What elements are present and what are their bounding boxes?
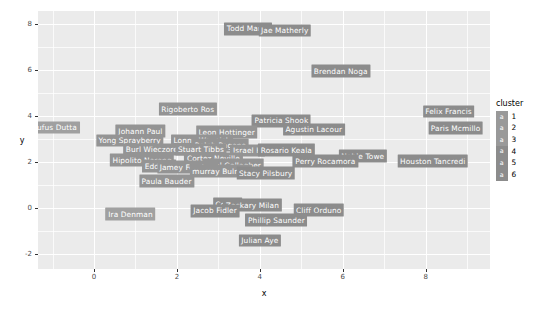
y-tick-label: 0 (0, 204, 32, 212)
x-tick-label: 6 (341, 273, 345, 281)
legend-item-label: 5 (512, 159, 517, 167)
point-label: Jacob Fidler (191, 204, 240, 217)
point-label: Julian Aye (239, 234, 281, 247)
point-label: Ira Denman (106, 208, 156, 221)
y-tick-mark (35, 116, 38, 117)
gridline-y-minor (38, 231, 490, 232)
y-tick-mark (35, 24, 38, 25)
point-label: Jae Matherly (258, 24, 311, 37)
legend-key-glyph: a (496, 111, 508, 123)
x-tick-mark (94, 269, 95, 272)
point-label: Houston Tancredi (397, 155, 468, 168)
point-label: Rigoberto Ros (159, 103, 217, 116)
y-tick-label: 6 (0, 66, 32, 74)
x-tick-label: 4 (258, 273, 262, 281)
legend: cluster a1a2a3a4a5a6 (496, 99, 544, 181)
y-tick-label: 2 (0, 158, 32, 166)
point-label: Stacy Pilsbury (236, 167, 295, 180)
legend-item: a5 (496, 157, 544, 169)
legend-item-label: 1 (512, 113, 517, 121)
x-tick-mark (343, 269, 344, 272)
x-axis-title: x (262, 289, 267, 298)
legend-item: a2 (496, 123, 544, 135)
legend-key-glyph: a (496, 134, 508, 146)
gridline-y-minor (38, 93, 490, 94)
point-label: Perry Rocamora (293, 155, 358, 168)
legend-item: a6 (496, 169, 544, 181)
point-label: Paris Mcmillo (428, 122, 483, 135)
point-label: Brendan Noga (311, 65, 370, 78)
point-label: Rufus Dutta (38, 121, 80, 134)
legend-key-glyph: a (496, 169, 508, 181)
gridline-y-major (38, 254, 490, 255)
y-tick-mark (35, 70, 38, 71)
legend-key-glyph: a (496, 157, 508, 169)
legend-item: a4 (496, 146, 544, 158)
y-tick-label: 8 (0, 20, 32, 28)
x-tick-label: 0 (92, 273, 96, 281)
point-label: Felix Francis (423, 105, 475, 118)
legend-entries: a1a2a3a4a5a6 (496, 111, 544, 181)
legend-title: cluster (496, 99, 544, 108)
y-tick-mark (35, 162, 38, 163)
legend-item-label: 3 (512, 136, 517, 144)
y-tick-mark (35, 254, 38, 255)
x-tick-label: 8 (423, 273, 427, 281)
gridline-y-minor (38, 185, 490, 186)
y-axis-title: y (20, 136, 25, 145)
gridline-y-major (38, 70, 490, 71)
legend-key-glyph: a (496, 123, 508, 135)
point-label: Phillip Saunder (245, 214, 307, 227)
point-label: Paula Bauder (139, 175, 194, 188)
x-tick-mark (260, 269, 261, 272)
y-tick-mark (35, 208, 38, 209)
legend-item-label: 6 (512, 171, 517, 179)
y-tick-label: 4 (0, 112, 32, 120)
legend-item: a3 (496, 134, 544, 146)
point-label: Agustin Lacour (283, 123, 345, 136)
plot-panel: Todd MangiJae MatherlyBrendan NogaRigobe… (38, 11, 490, 269)
legend-item: a1 (496, 111, 544, 123)
x-tick-label: 2 (175, 273, 179, 281)
x-tick-mark (177, 269, 178, 272)
y-tick-label: -2 (0, 250, 32, 258)
x-tick-mark (426, 269, 427, 272)
legend-key-glyph: a (496, 146, 508, 158)
legend-item-label: 2 (512, 124, 517, 132)
scatter-plot-figure: Todd MangiJae MatherlyBrendan NogaRigobe… (0, 0, 545, 314)
gridline-y-minor (38, 47, 490, 48)
legend-item-label: 4 (512, 148, 517, 156)
